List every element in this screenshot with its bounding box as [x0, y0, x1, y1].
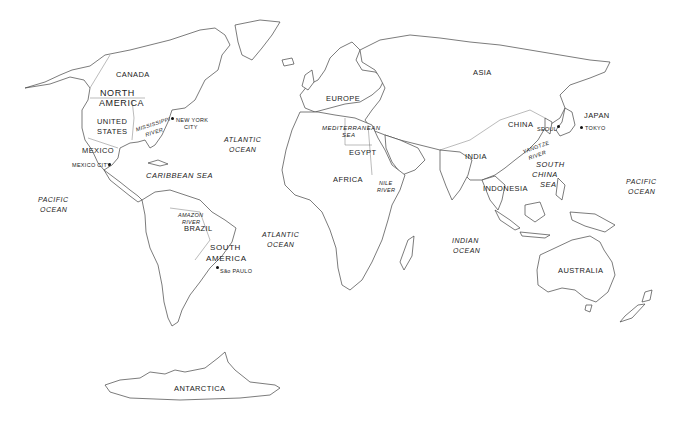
label-new-york-2: CITY — [184, 124, 198, 130]
label-south-china-2: CHINA — [532, 171, 558, 179]
label-indian-1: INDIAN — [452, 237, 479, 245]
landmass-outlines — [0, 0, 681, 421]
tasmania-shape — [585, 305, 592, 312]
label-seoul: SEOUL — [537, 126, 557, 132]
label-north-america-2: AMERICA — [99, 99, 144, 109]
city-dot-sao-paulo — [216, 266, 219, 269]
greenland-shape — [235, 20, 280, 60]
label-mexico: MEXICO — [82, 147, 114, 155]
label-atlantic-north-2: OCEAN — [229, 146, 256, 154]
label-pacific-west-2: OCEAN — [40, 206, 67, 214]
label-europe: EUROPE — [326, 95, 360, 103]
label-pacific-east-2: OCEAN — [628, 188, 655, 196]
borneo-shape — [525, 202, 545, 222]
label-pacific-east-1: PACIFIC — [626, 178, 657, 186]
label-south-china-3: SEA — [540, 181, 557, 189]
label-atlantic-south-1: ATLANTIC — [262, 231, 299, 239]
city-dot-new-york — [171, 117, 174, 120]
city-dot-tokyo — [580, 126, 583, 129]
label-china: CHINA — [508, 121, 533, 129]
label-south-china-1: SOUTH — [536, 161, 565, 169]
label-tokyo: TOKYO — [585, 125, 606, 131]
madagascar-shape — [400, 236, 414, 270]
label-amazon-1: AMAZON — [178, 212, 203, 218]
label-pacific-west-1: PACIFIC — [38, 196, 69, 204]
label-sao-paulo: São PAULO — [220, 268, 252, 274]
label-atlantic-north-1: ATLANTIC — [224, 136, 261, 144]
iceland-shape — [282, 58, 294, 66]
label-africa: AFRICA — [333, 176, 363, 184]
city-dot-seoul — [557, 125, 560, 128]
label-mediterranean-1: MEDITERRANEAN — [322, 125, 381, 132]
world-map: CANADA NORTH AMERICA UNITED STATES MISSI… — [0, 0, 681, 421]
philippines-shape — [556, 178, 565, 200]
central-america-shape — [104, 170, 142, 202]
label-caribbean-sea: CARIBBEAN SEA — [146, 172, 213, 180]
label-south-america-1: SOUTH — [210, 244, 241, 253]
label-canada: CANADA — [116, 71, 150, 79]
label-australia: AUSTRALIA — [558, 267, 603, 275]
label-united-states-1: UNITED — [97, 118, 127, 126]
new-guinea-shape — [570, 212, 615, 232]
label-nile-2: RIVER — [377, 187, 395, 193]
label-south-america-2: AMERICA — [206, 255, 247, 264]
label-mediterranean-2: SEA — [342, 132, 356, 139]
label-japan: JAPAN — [584, 112, 610, 120]
label-egypt: EGYPT — [349, 149, 376, 157]
new-zealand-shape — [620, 290, 652, 322]
label-indonesia: INDONESIA — [483, 185, 528, 193]
label-nile-1: NILE — [379, 180, 392, 186]
label-new-york-1: NEW YORK — [176, 117, 208, 123]
label-india: INDIA — [465, 153, 487, 161]
label-united-states-2: STATES — [97, 128, 127, 136]
label-mexico-city: MEXICO CITY — [72, 162, 111, 168]
label-brazil: BRAZIL — [184, 225, 213, 233]
sumatra-shape — [495, 210, 520, 230]
cuba-shape — [148, 160, 168, 166]
label-asia: ASIA — [473, 69, 492, 77]
label-antarctica: ANTARCTICA — [174, 385, 225, 393]
label-indian-2: OCEAN — [453, 247, 480, 255]
label-atlantic-south-2: OCEAN — [267, 241, 294, 249]
java-shape — [520, 232, 550, 238]
